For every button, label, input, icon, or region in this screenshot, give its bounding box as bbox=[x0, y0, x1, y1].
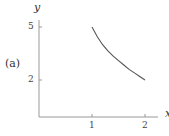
chart-plot bbox=[0, 0, 169, 136]
y-tick-label-5: 5 bbox=[28, 22, 34, 31]
x-tick-label-2: 2 bbox=[142, 121, 148, 130]
x-axis-label: x bbox=[165, 108, 169, 119]
y-tick-label-2: 2 bbox=[28, 75, 34, 84]
x-tick-label-1: 1 bbox=[89, 121, 95, 130]
data-curve bbox=[92, 27, 145, 80]
